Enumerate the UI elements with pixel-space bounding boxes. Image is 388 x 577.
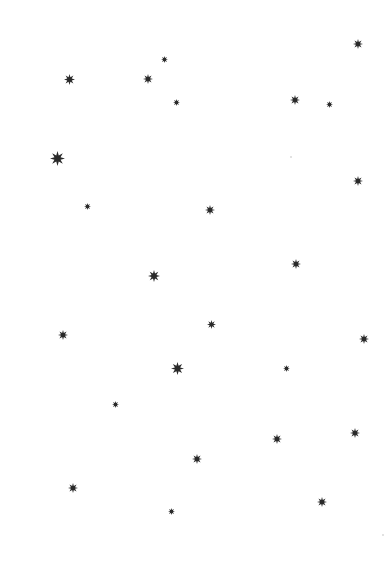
star-icon <box>353 39 363 49</box>
star-icon <box>68 483 78 493</box>
star-icon <box>173 99 180 106</box>
star-icon <box>112 401 119 408</box>
star-icon <box>58 330 68 340</box>
star-icon <box>272 434 282 444</box>
star-icon <box>168 508 175 515</box>
star-icon <box>291 259 301 269</box>
star-icon <box>143 74 153 84</box>
star-icon <box>207 320 216 329</box>
star-field <box>0 0 388 577</box>
star-icon <box>50 151 65 166</box>
star-icon <box>350 428 360 438</box>
star-icon <box>171 362 184 375</box>
star-icon <box>192 454 202 464</box>
star-icon <box>64 74 75 85</box>
star-icon <box>84 203 91 210</box>
star-icon <box>290 95 300 105</box>
star-icon <box>326 101 333 108</box>
star-icon <box>205 205 215 215</box>
star-icon <box>161 56 168 63</box>
star-icon <box>353 176 363 186</box>
star-icon <box>148 270 160 282</box>
star-icon <box>283 365 290 372</box>
faint-dot <box>382 534 384 536</box>
star-icon <box>359 334 369 344</box>
star-icon <box>317 497 327 507</box>
faint-dot <box>290 156 292 158</box>
